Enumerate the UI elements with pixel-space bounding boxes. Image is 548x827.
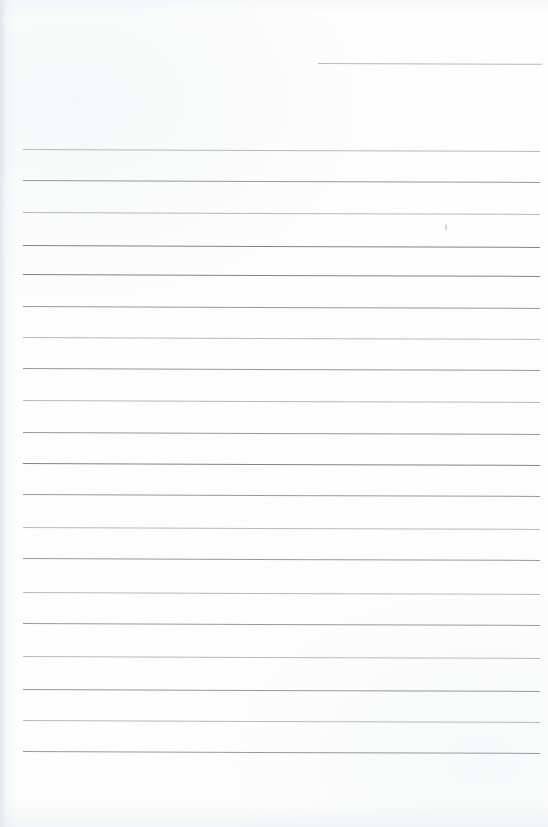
top-edge-shadow [0, 0, 548, 14]
ruled-line [23, 592, 540, 595]
ruled-line [23, 212, 540, 215]
ruled-line [23, 337, 540, 340]
ruled-line [23, 656, 540, 659]
ruled-line [23, 689, 540, 692]
scanned-page: Blank ruled notebook page [0, 0, 548, 827]
ruled-line [23, 306, 540, 309]
ruled-line [23, 720, 540, 723]
paper-grain-overlay [0, 0, 548, 827]
ruled-line [23, 149, 540, 152]
ruled-line [23, 751, 540, 754]
bottom-edge-shadow [0, 801, 548, 827]
ruled-line [23, 432, 540, 435]
ruled-line [23, 245, 540, 248]
ruled-line [23, 463, 540, 466]
stray-pencil-mark [445, 224, 447, 230]
ruled-line [23, 180, 540, 183]
ruled-line [23, 400, 540, 403]
ruled-line [23, 368, 540, 371]
ruled-line [23, 494, 540, 497]
ruled-line [23, 558, 540, 561]
left-edge-shadow [0, 0, 16, 827]
ruled-line [318, 63, 542, 65]
ruled-line [23, 623, 540, 626]
ruled-line [23, 527, 540, 530]
ruled-line [23, 274, 540, 277]
